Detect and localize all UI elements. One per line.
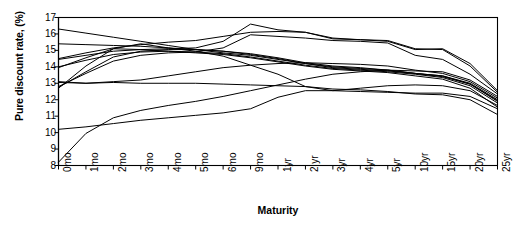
x-tick-label: 2 yr — [310, 155, 320, 172]
x-tick-label: 25yr — [502, 152, 512, 171]
x-tick-label: 10yr — [420, 152, 430, 171]
x-tick-label: 15yr — [447, 152, 457, 171]
x-tick-label: 5mo — [200, 152, 210, 171]
chart-figure: Pure discount rate, (%) 8910111213141516… — [0, 0, 523, 225]
x-tick-label: 2mo — [118, 152, 128, 171]
x-axis-title: Maturity — [58, 204, 498, 216]
x-tick-label: 4mo — [173, 152, 183, 171]
x-axis-tick-labels: 0mo1mo2mo3mo4mo5mo6mo9mo1yr2 yr3yr4yr5yr… — [0, 0, 523, 225]
x-tick-label: 5yr — [392, 158, 402, 172]
x-tick-label: 1yr — [283, 158, 293, 172]
x-tick-label: 20yr — [475, 152, 485, 171]
x-tick-label: 3mo — [145, 152, 155, 171]
x-tick-label: 0mo — [63, 152, 73, 171]
x-tick-label: 3yr — [337, 158, 347, 172]
x-tick-label: 6mo — [228, 152, 238, 171]
x-tick-label: 4yr — [365, 158, 375, 172]
x-tick-label: 9mo — [255, 152, 265, 171]
x-tick-label: 1mo — [90, 152, 100, 171]
